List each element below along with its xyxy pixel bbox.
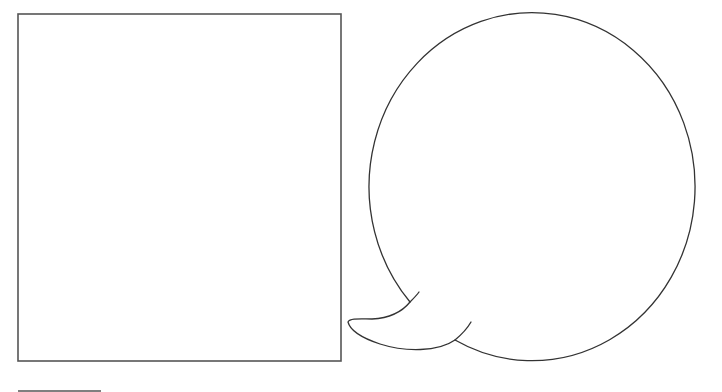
speech-bubble-body (348, 13, 695, 361)
speech-bubble (348, 13, 695, 361)
panel-frame (18, 14, 341, 361)
comic-template-canvas (0, 0, 722, 392)
panel-group (18, 14, 341, 361)
